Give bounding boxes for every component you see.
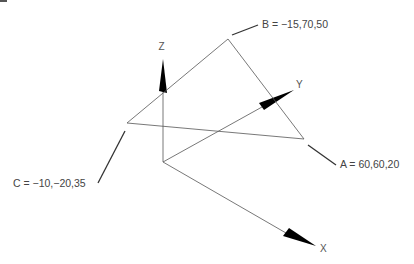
corner-mark <box>0 0 7 2</box>
leader-a <box>308 145 336 165</box>
edge-ba <box>228 39 304 139</box>
z-axis-label: Z <box>159 41 165 52</box>
point-a-label: A = 60,60,20 <box>340 158 399 170</box>
3d-coordinate-diagram: Z Y X B = −15,70,50 A = 60,60,20 C = −10… <box>0 0 414 264</box>
y-axis-arrow-icon <box>259 90 294 110</box>
point-c-label: C = −10,−20,35 <box>13 177 86 189</box>
point-b-label: B = −15,70,50 <box>262 18 328 30</box>
x-axis-line <box>163 162 286 233</box>
z-axis-arrow-icon <box>159 59 167 93</box>
x-axis-arrow-icon <box>283 228 316 246</box>
edge-cb <box>127 39 228 123</box>
y-axis-line <box>163 107 262 162</box>
y-axis-label: Y <box>296 79 303 90</box>
axes: Z Y X <box>159 41 328 254</box>
leader-c <box>98 131 125 183</box>
x-axis-label: X <box>320 243 327 254</box>
edge-ac <box>127 123 304 139</box>
leader-b <box>232 25 258 35</box>
leaders <box>98 25 336 183</box>
triangle-abc <box>127 39 304 139</box>
